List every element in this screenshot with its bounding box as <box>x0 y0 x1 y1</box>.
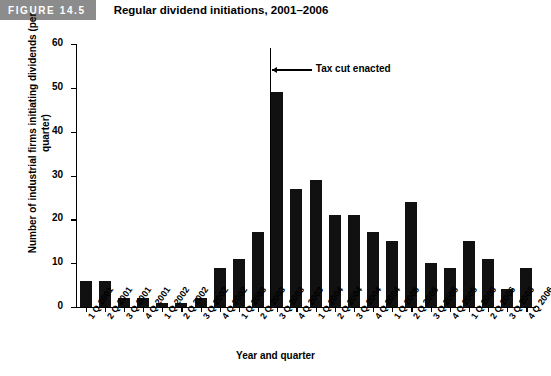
x-axis-tick <box>201 307 202 312</box>
page-title: Regular dividend initiations, 2001–2006 <box>96 0 329 20</box>
y-axis-title: Number of industrial firms initiating di… <box>26 8 52 258</box>
x-axis-tick <box>450 307 451 312</box>
chart-canvas: Number of industrial firms initiating di… <box>0 20 551 376</box>
x-axis-tick-label: 3 Q 2001 <box>124 315 132 321</box>
plot-region: 0102030405060 Tax cut enacted <box>76 44 536 307</box>
y-axis-tick-label: 40 <box>52 125 63 136</box>
x-axis-tick <box>431 307 432 312</box>
x-axis-tick <box>220 307 221 312</box>
figure-header: FIGURE 14.5 Regular dividend initiations… <box>0 0 551 20</box>
x-axis-tick <box>124 307 125 312</box>
x-axis-tick <box>335 307 336 312</box>
y-axis-tick: 0 <box>71 307 76 308</box>
x-axis-tick-label: 3 Q 2003 <box>277 315 285 321</box>
annotation-leader-line <box>272 69 312 70</box>
x-axis-tick-label: 1 Q 2006 <box>469 315 477 321</box>
x-axis-tick-label: 2 Q 2006 <box>488 315 496 321</box>
x-axis-tick-label: 4 Q 2001 <box>143 315 151 321</box>
y-axis-tick-label: 60 <box>52 37 63 48</box>
x-axis-tick-label: 2 Q 2002 <box>181 315 189 321</box>
y-axis-tick-label: 30 <box>52 169 63 180</box>
x-axis-tick <box>469 307 470 312</box>
bar-series <box>76 44 536 307</box>
x-axis-tick-label: 2 Q 2001 <box>105 315 113 321</box>
x-axis-tick-label: 4 Q 2003 <box>296 315 304 321</box>
x-axis-tick-label: 4 Q 2006 <box>526 315 534 321</box>
x-axis-tick-label: 3 Q 2005 <box>430 315 438 321</box>
x-axis-tick-label: 3 Q 2002 <box>200 315 208 321</box>
x-axis-tick <box>354 307 355 312</box>
bar <box>271 92 283 307</box>
x-axis-tick-label: 1 Q 2001 <box>85 315 93 321</box>
bar <box>80 281 92 307</box>
x-axis-tick-label: 3 Q 2006 <box>507 315 515 321</box>
annotation-arrowhead-icon <box>272 67 277 73</box>
x-axis-tick-label: 1 Q 2003 <box>239 315 247 321</box>
annotation-label: Tax cut enacted <box>316 63 391 74</box>
x-axis-tick-label: 1 Q 2004 <box>315 315 323 321</box>
x-axis-tick <box>239 307 240 312</box>
x-axis-tick-label: 2 Q 2005 <box>411 315 419 321</box>
x-axis-tick <box>316 307 317 312</box>
y-axis-tick-label: 0 <box>57 300 63 311</box>
x-axis-tick-label: 2 Q 2004 <box>335 315 343 321</box>
x-axis-tick-label: 2 Q 2003 <box>258 315 266 321</box>
x-axis-tick-label: 4 Q 2002 <box>220 315 228 321</box>
x-axis-tick-label: 1 Q 2002 <box>162 315 170 321</box>
x-axis-tick-label: 3 Q 2004 <box>354 315 362 321</box>
x-axis-tick <box>86 307 87 312</box>
x-axis-tick <box>105 307 106 312</box>
x-axis-title: Year and quarter <box>0 350 551 361</box>
x-axis-tick-label: 4 Q 2005 <box>450 315 458 321</box>
y-axis-tick-label: 50 <box>52 81 63 92</box>
y-axis-tick-label: 10 <box>52 256 63 267</box>
x-axis-tick-label: 4 Q 2004 <box>373 315 381 321</box>
y-axis-tick-label: 20 <box>52 212 63 223</box>
x-axis-tick-label: 1 Q 2005 <box>392 315 400 321</box>
event-marker-line <box>270 48 271 307</box>
